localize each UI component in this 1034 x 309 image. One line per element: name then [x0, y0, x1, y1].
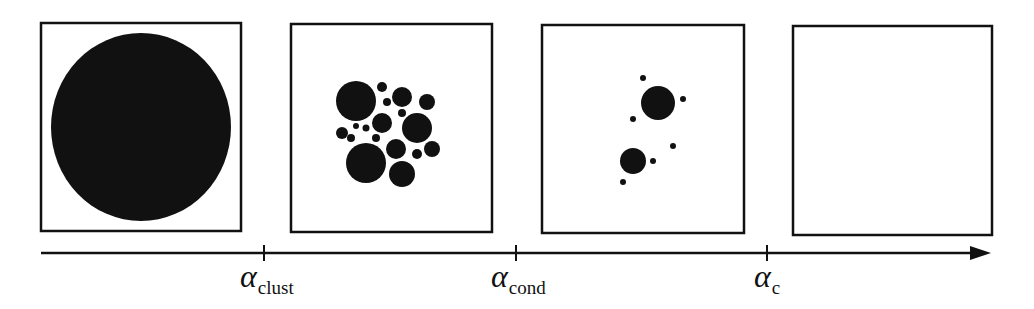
droplet-circle: [398, 109, 406, 117]
droplet-circle: [383, 98, 391, 106]
tick-label-subscript: cond: [509, 277, 546, 298]
droplet-circle: [377, 82, 387, 92]
droplet-circle: [650, 158, 656, 164]
panels-group: [41, 23, 992, 235]
droplet-circle: [386, 139, 406, 159]
droplet-circle: [336, 127, 348, 139]
droplet-circle: [630, 116, 636, 122]
panel-2: [291, 24, 492, 232]
droplet-circle: [346, 143, 386, 183]
droplet-circle: [424, 141, 440, 157]
tick-label-alpha-cond: αcond: [491, 258, 546, 295]
droplet-circle: [336, 81, 376, 121]
droplet-circle: [389, 161, 415, 187]
panel-4: [793, 26, 992, 235]
tick-label-alpha-clust: αclust: [240, 258, 294, 295]
tick-label-symbol: α: [240, 258, 257, 294]
droplet-circle: [620, 179, 626, 185]
tick-label-alpha-c: αc: [754, 258, 780, 295]
droplet-circle: [620, 148, 646, 174]
droplet-circle: [412, 149, 422, 159]
droplet-circle: [372, 113, 392, 133]
droplet-circle: [392, 87, 412, 107]
tick-label-subscript: c: [772, 277, 780, 298]
droplet-circle: [347, 134, 355, 142]
panel-1: [41, 23, 241, 231]
droplet-circle: [402, 113, 432, 143]
droplet-circle: [353, 123, 359, 129]
droplet-circle: [640, 75, 646, 81]
tick-label-subscript: clust: [258, 277, 294, 298]
tick-label-symbol: α: [754, 258, 771, 294]
diagram-canvas: αclust αcond αc: [0, 0, 1034, 309]
droplet-circle: [670, 143, 676, 149]
droplet-circle: [363, 125, 370, 132]
tick-label-symbol: α: [491, 258, 508, 294]
panel-frame: [793, 26, 992, 235]
panel-frame: [291, 24, 492, 232]
panel-frame: [542, 25, 744, 233]
droplet-circle: [680, 96, 686, 102]
droplet-circle: [419, 94, 435, 110]
panel-3: [542, 25, 744, 233]
droplet-circle: [641, 86, 675, 120]
arrowhead-icon: [970, 246, 991, 260]
droplet-circle: [372, 134, 380, 142]
droplet-circle: [51, 33, 231, 221]
